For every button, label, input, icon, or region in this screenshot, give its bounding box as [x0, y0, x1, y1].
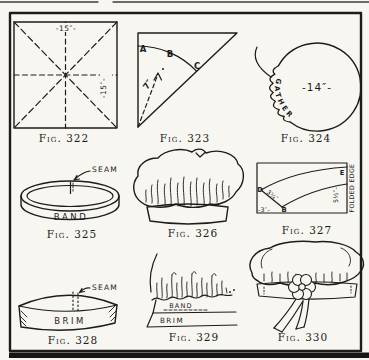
fig324-gather-label: GATHER	[273, 78, 296, 121]
fig327-folded-edge-label: FOLDED EDGE	[348, 164, 355, 213]
fig323-point-c: C	[194, 61, 200, 71]
figure-322: -15″- -15″- Fig. 322	[14, 22, 117, 144]
fig329-caption: Fig. 329	[169, 331, 219, 343]
fig330-rosette	[289, 275, 316, 300]
fig328-seam-arrow	[80, 288, 91, 293]
figure-328: SEAM BRIM Fig. 328	[19, 283, 118, 346]
fig329-stitch-dot	[229, 291, 231, 293]
fig326-crown	[134, 149, 244, 207]
fig328-seam-label: SEAM	[92, 283, 118, 292]
fig325-band-label: BAND	[54, 212, 89, 222]
fig324-gather-thread	[255, 47, 271, 77]
fig323-caption: Fig. 323	[160, 132, 210, 144]
figure-323: A B C 7″ Fig. 323	[138, 33, 237, 144]
fig322-width-dimension: -15″-	[56, 24, 76, 33]
fig329-stitch-dot2	[233, 289, 235, 291]
fig325-seam-arrow	[74, 171, 90, 180]
fig330-caption: Fig. 330	[278, 331, 328, 343]
figure-325: SEAM BAND Fig. 325	[21, 165, 119, 240]
svg-text:GATHER: GATHER	[273, 78, 296, 121]
fig328-brim-mid-line	[19, 305, 117, 311]
fig322-caption: Fig. 322	[39, 132, 89, 144]
fig326-crown-dimple	[196, 153, 205, 158]
scan-bottom-band	[9, 353, 369, 359]
fig327-point-e: E	[340, 169, 345, 177]
fig329-band-label: BAND	[169, 302, 193, 310]
figure-324: -14″- GATHER Fig. 324	[255, 43, 361, 143]
fig328-brim-label: BRIM	[54, 316, 86, 326]
fig325-caption: Fig. 325	[47, 228, 97, 240]
fig330-crown-puff-lines	[261, 248, 350, 268]
fig327-width-dimension: -3″-	[258, 206, 270, 213]
fig326-caption: Fig. 326	[168, 227, 218, 239]
fig323-radius-dimension: 7″	[141, 77, 155, 91]
fig327-caption: Fig. 327	[282, 224, 332, 236]
fig329-crown-edge	[150, 254, 157, 292]
fig324-diameter-dimension: -14″-	[302, 81, 332, 93]
fig323-arrowhead	[154, 73, 162, 80]
figure-326: Fig. 326	[134, 149, 244, 238]
fig326-gather-strokes	[146, 177, 230, 206]
fig327-length-dimension: 5½″-	[332, 187, 339, 203]
book-plate-page: -15″- -15″- Fig. 322 A B C 7″ Fig. 323 -…	[0, 0, 369, 360]
fig325-seam-label: SEAM	[92, 165, 118, 174]
fig329-gather-strokes	[157, 272, 227, 298]
fig322-height-dimension: -15″-	[99, 78, 108, 98]
figure-330: Fig. 330	[250, 241, 363, 343]
figure-329: BAND BRIM Fig. 329	[147, 254, 237, 343]
fig323-dot	[162, 68, 164, 70]
fig324-caption: Fig. 324	[281, 132, 331, 144]
figure-327: D B E -3″- 3¼″ 5½″- FOLDED EDGE Fig. 327	[257, 163, 355, 236]
plate-canvas: -15″- -15″- Fig. 322 A B C 7″ Fig. 323 -…	[0, 0, 369, 360]
fig323-point-b: B	[167, 49, 173, 59]
fig328-caption: Fig. 328	[48, 334, 98, 346]
fig327-point-b: B	[281, 206, 286, 214]
fig323-point-a: A	[140, 44, 147, 54]
fig327-point-d: D	[257, 186, 263, 194]
fig330-ribbon-streamers	[274, 299, 309, 332]
fig329-brim-label: BRIM	[160, 316, 184, 325]
fig329-band-strip	[153, 300, 236, 313]
